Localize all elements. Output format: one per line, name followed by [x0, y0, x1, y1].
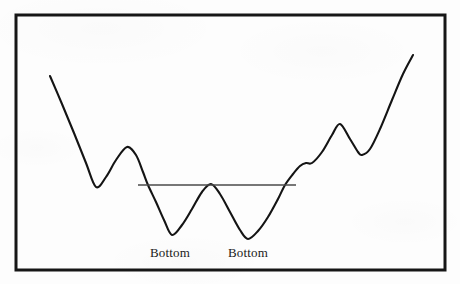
bottom-label-right: Bottom	[228, 245, 268, 260]
bottom-label-left: Bottom	[150, 245, 190, 260]
chart-screenshot: Bottom Bottom	[0, 0, 460, 284]
price-line	[50, 55, 413, 239]
chart-border-frame	[16, 15, 445, 270]
double-bottom-chart: Bottom Bottom	[0, 0, 460, 284]
